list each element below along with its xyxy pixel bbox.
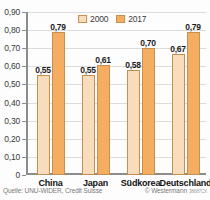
bar-group: 0,670,79	[172, 12, 200, 175]
bar-china-2000: 0,55	[37, 75, 50, 175]
y-axis-label: 0,20	[0, 134, 20, 144]
y-axis-label: 0,90	[0, 7, 20, 17]
bar-value-label: 0,61	[95, 55, 110, 65]
bar-japan-2017: 0,61	[97, 65, 110, 175]
bar-group: 0,580,70	[127, 12, 155, 175]
legend-label-2017: 2017	[128, 14, 146, 24]
y-axis-label: 0,40	[0, 98, 20, 108]
copyright-code: 38687CX	[189, 189, 207, 194]
y-axis-label: 0,70	[0, 43, 20, 53]
legend-swatch-2000	[78, 15, 87, 23]
bar-deutschland-2017: 0,79	[187, 32, 200, 175]
bar-südkorea-2000: 0,58	[127, 70, 140, 175]
bar-japan-2000: 0,55	[82, 75, 95, 175]
y-axis-tick	[22, 175, 26, 176]
bar-value-label: 0,79	[185, 22, 200, 32]
bar-value-label: 0,67	[170, 44, 185, 54]
copyright-text: © Westermann	[145, 187, 187, 194]
y-axis-label: 0,10	[0, 152, 20, 162]
bar-china-2017: 0,79	[52, 32, 65, 175]
bar-value-label: 0,70	[140, 38, 155, 48]
y-axis-label: 0,50	[0, 79, 20, 89]
bar-group: 0,550,61	[82, 12, 110, 175]
y-axis-line	[26, 12, 28, 175]
legend-item-2017: 2017	[116, 14, 146, 24]
plot-area: 0,550,790,550,610,580,700,670,79	[26, 12, 206, 175]
legend-label-2000: 2000	[90, 14, 108, 24]
y-axis-label: 0,80	[0, 25, 20, 35]
legend-swatch-2017	[116, 15, 125, 23]
source-note: Quelle: UNU-WIDER, Credit Suisse	[3, 187, 102, 194]
legend-item-2000: 2000	[78, 14, 108, 24]
copyright-note: © Westermann 38687CX	[145, 187, 207, 194]
bar-value-label: 0,55	[35, 65, 50, 75]
y-axis-label: 0,60	[0, 61, 20, 71]
bar-deutschland-2000: 0,67	[172, 54, 185, 175]
chart-footer: Quelle: UNU-WIDER, Credit Suisse © Weste…	[0, 187, 210, 198]
chart-legend: 2000 2017	[76, 14, 148, 24]
y-axis-label: 0,30	[0, 116, 20, 126]
bar-südkorea-2017: 0,70	[142, 48, 155, 175]
bar-group: 0,550,79	[37, 12, 65, 175]
y-axis-label: 0	[0, 170, 20, 180]
bar-value-label: 0,58	[125, 60, 140, 70]
chart-figure: 0,550,790,550,610,580,700,670,79 0,900,8…	[0, 0, 210, 200]
bar-value-label: 0,79	[50, 22, 65, 32]
bar-value-label: 0,55	[80, 65, 95, 75]
